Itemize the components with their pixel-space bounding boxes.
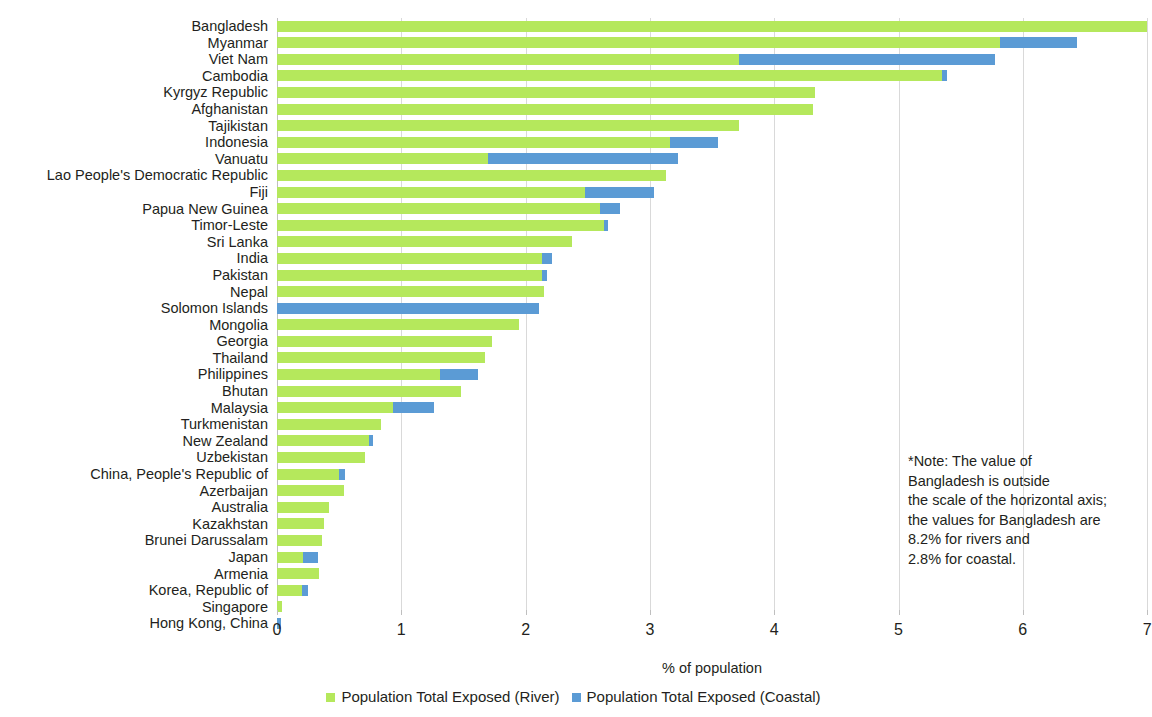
category-label: Bhutan bbox=[0, 383, 272, 400]
bar-row bbox=[277, 300, 1147, 317]
bar-segment-river bbox=[277, 369, 440, 380]
bar-segment-river bbox=[277, 236, 572, 247]
x-tick-label: 2 bbox=[521, 621, 530, 639]
category-label: Cambodia bbox=[0, 68, 272, 85]
bar-row bbox=[277, 234, 1147, 251]
legend-item[interactable]: Population Total Exposed (Coastal) bbox=[572, 688, 821, 705]
bar-row bbox=[277, 217, 1147, 234]
category-label: Brunei Darussalam bbox=[0, 532, 272, 549]
bar-row bbox=[277, 68, 1147, 85]
bar-row bbox=[277, 51, 1147, 68]
bar-segment-river bbox=[277, 518, 324, 529]
category-label: Turkmenistan bbox=[0, 416, 272, 433]
bar-segment-river bbox=[277, 220, 604, 231]
category-label: Pakistan bbox=[0, 267, 272, 284]
x-tick-mark bbox=[650, 610, 651, 615]
category-label: Tajikistan bbox=[0, 118, 272, 135]
x-tick-mark bbox=[401, 610, 402, 615]
x-axis: 01234567 bbox=[277, 615, 1147, 649]
bar-segment-coastal bbox=[393, 402, 434, 413]
category-label: Uzbekistan bbox=[0, 449, 272, 466]
x-tick-label: 1 bbox=[397, 621, 406, 639]
x-axis-title-text: % of population bbox=[662, 660, 762, 676]
bar-segment-coastal bbox=[542, 253, 552, 264]
legend-swatch-icon bbox=[572, 693, 581, 702]
note-line: 2.8% for coastal. bbox=[908, 550, 1146, 570]
category-label: Armenia bbox=[0, 566, 272, 583]
bar-segment-river bbox=[277, 502, 329, 513]
gridline bbox=[1147, 18, 1148, 615]
bar-segment-river bbox=[277, 137, 670, 148]
category-label: Georgia bbox=[0, 333, 272, 350]
bar-segment-coastal bbox=[942, 70, 947, 81]
note-line: the values for Bangladesh are bbox=[908, 511, 1146, 531]
category-label: Kyrgyz Republic bbox=[0, 84, 272, 101]
bar-segment-river bbox=[277, 419, 381, 430]
category-label: Thailand bbox=[0, 350, 272, 367]
bar-segment-coastal bbox=[739, 54, 995, 65]
note-line: 8.2% for rivers and bbox=[908, 530, 1146, 550]
bar-segment-river bbox=[277, 253, 542, 264]
bar-segment-river bbox=[277, 402, 393, 413]
category-label: Indonesia bbox=[0, 134, 272, 151]
bar-segment-river bbox=[277, 270, 542, 281]
bar-segment-river bbox=[277, 70, 942, 81]
bar-segment-river bbox=[277, 552, 303, 563]
bar-segment-river bbox=[277, 87, 815, 98]
bar-row bbox=[277, 416, 1147, 433]
bar-segment-river bbox=[277, 203, 600, 214]
bar-segment-river bbox=[277, 153, 488, 164]
legend-label: Population Total Exposed (River) bbox=[341, 688, 559, 705]
category-label: Azerbaijan bbox=[0, 483, 272, 500]
bar-row bbox=[277, 151, 1147, 168]
category-label: Kazakhstan bbox=[0, 516, 272, 533]
legend-item[interactable]: Population Total Exposed (River) bbox=[326, 688, 559, 705]
category-label: Bangladesh bbox=[0, 18, 272, 35]
bar-row bbox=[277, 599, 1147, 616]
chart-note: *Note: The value ofBangladesh is outside… bbox=[908, 452, 1146, 569]
bar-row bbox=[277, 350, 1147, 367]
bar-segment-river bbox=[277, 585, 302, 596]
category-label: Japan bbox=[0, 549, 272, 566]
bar-row bbox=[277, 134, 1147, 151]
bar-segment-river bbox=[277, 170, 666, 181]
bar-segment-river bbox=[277, 286, 544, 297]
category-label: Vanuatu bbox=[0, 151, 272, 168]
bar-row bbox=[277, 366, 1147, 383]
bar-segment-coastal bbox=[670, 137, 718, 148]
category-label: Fiji bbox=[0, 184, 272, 201]
legend-swatch-icon bbox=[326, 693, 335, 702]
category-label: Malaysia bbox=[0, 400, 272, 417]
x-tick-mark bbox=[526, 610, 527, 615]
bar-segment-coastal bbox=[302, 585, 308, 596]
bar-row bbox=[277, 18, 1147, 35]
bar-segment-river bbox=[277, 452, 365, 463]
category-label: Singapore bbox=[0, 599, 272, 616]
x-tick-mark bbox=[277, 610, 278, 615]
bar-row bbox=[277, 433, 1147, 450]
bar-segment-river bbox=[277, 386, 461, 397]
bar-row bbox=[277, 284, 1147, 301]
x-tick-label: 7 bbox=[1143, 621, 1152, 639]
x-tick-mark bbox=[1023, 610, 1024, 615]
bar-segment-river bbox=[277, 336, 492, 347]
bar-segment-river bbox=[277, 352, 485, 363]
x-axis-title: % of population bbox=[277, 660, 1147, 676]
bar-segment-coastal bbox=[303, 552, 318, 563]
category-label: New Zealand bbox=[0, 433, 272, 450]
bar-row bbox=[277, 250, 1147, 267]
note-line: *Note: The value of bbox=[908, 452, 1146, 472]
bar-row bbox=[277, 383, 1147, 400]
category-label: Timor-Leste bbox=[0, 217, 272, 234]
category-label: Nepal bbox=[0, 284, 272, 301]
bar-segment-river bbox=[277, 37, 1000, 48]
category-label: Australia bbox=[0, 499, 272, 516]
bar-segment-river bbox=[277, 104, 813, 115]
bar-row bbox=[277, 35, 1147, 52]
category-label: Afghanistan bbox=[0, 101, 272, 118]
category-label: Mongolia bbox=[0, 317, 272, 334]
bar-segment-coastal bbox=[277, 303, 539, 314]
x-tick-label: 0 bbox=[273, 621, 282, 639]
bar-row bbox=[277, 400, 1147, 417]
